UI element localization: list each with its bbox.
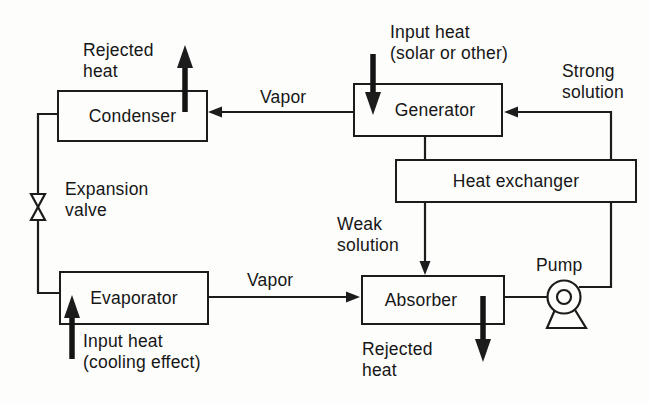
pump-icon — [547, 281, 586, 329]
vapor-top-label: Vapor — [260, 87, 306, 108]
vapor-bottom-label: Vapor — [247, 270, 293, 291]
rejected-heat-top-label: Rejected heat — [83, 40, 154, 82]
diagram-canvas: Condenser Generator Heat exchanger Evapo… — [0, 0, 650, 403]
weak-solution-label: Weak solution — [337, 214, 399, 256]
input-heat-cooling-arrow — [64, 295, 80, 359]
rejected-heat-top-arrow — [177, 45, 193, 112]
rejected-heat-bottom-arrow — [475, 296, 491, 362]
expansion-valve-icon — [31, 194, 45, 220]
strong-solution-label: Strong solution — [562, 61, 624, 103]
pump-label: Pump — [536, 255, 583, 276]
input-heat-cooling-label: Input heat (cooling effect) — [83, 331, 201, 373]
expansion-valve-label: Expansion valve — [65, 179, 149, 221]
input-heat-solar-label: Input heat (solar or other) — [390, 22, 508, 64]
input-heat-solar-arrow — [365, 54, 381, 115]
rejected-heat-bottom-label: Rejected heat — [362, 339, 433, 381]
